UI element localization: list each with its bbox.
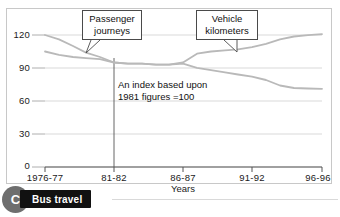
callout-vehicle-line1: Vehicle [212, 13, 243, 24]
annotation-line1: An index based upon [118, 79, 207, 90]
caption-label-bus-travel: Bus travel [20, 190, 91, 208]
y-tick-label-90: 90 [6, 62, 30, 73]
y-tick-label-0: 0 [6, 160, 30, 171]
x-tick-label-91-92: 91-92 [229, 172, 275, 183]
x-tick-label-81-82: 81-82 [91, 172, 137, 183]
x-tick-label-86-87: 86-87 [160, 172, 206, 183]
caption-divider [112, 199, 338, 200]
y-axis-tick-stubs [32, 35, 45, 167]
callout-vehicle-line2: kilometers [202, 25, 252, 37]
x-tick-label-1976-77: 1976-77 [17, 172, 73, 183]
y-tick-label-60: 60 [6, 95, 30, 106]
y-tick-label-30: 30 [6, 128, 30, 139]
index-base-annotation: An index based upon 1981 figures =100 [118, 79, 207, 102]
caption-bar: C Bus travel [0, 184, 340, 217]
y-tick-label-120: 120 [6, 29, 30, 40]
callout-tail-passenger [86, 39, 101, 53]
callout-passenger-line2: journeys [88, 25, 136, 37]
callout-passenger-line1: Passenger [89, 13, 134, 24]
annotation-line2: 1981 figures =100 [118, 91, 194, 102]
callout-vehicle-kilometers: Vehicle kilometers [196, 10, 258, 40]
x-tick-label-96-96: 96-96 [297, 172, 339, 183]
callout-passenger-journeys: Passenger journeys [82, 10, 142, 40]
figure-page: 120 90 60 30 0 1976-77 81-82 86-87 91-92… [0, 0, 340, 217]
